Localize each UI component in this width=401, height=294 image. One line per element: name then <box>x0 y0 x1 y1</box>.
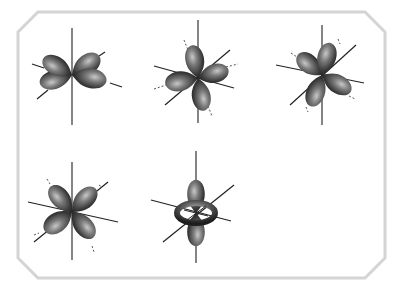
diagram-frame <box>0 0 401 294</box>
